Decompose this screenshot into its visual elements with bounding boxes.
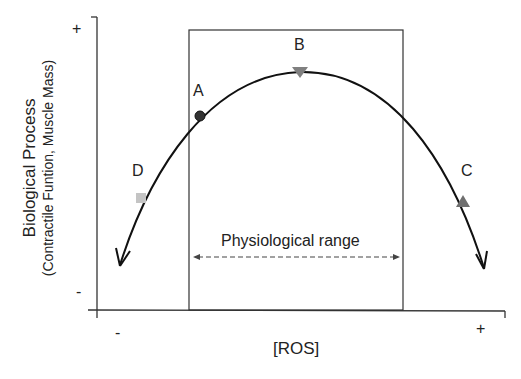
physiological-range-arrow xyxy=(193,254,400,260)
y-axis-minus-sign: - xyxy=(76,283,81,301)
y-axis-plus-sign: + xyxy=(72,20,81,38)
point-d-marker xyxy=(136,193,146,203)
y-axis xyxy=(91,17,97,318)
x-axis-plus-sign: + xyxy=(476,320,485,338)
physiological-range-label: Physiological range xyxy=(221,232,360,250)
y-axis-title: Biological Process xyxy=(20,60,40,276)
point-c-label: C xyxy=(461,162,473,180)
y-axis-subtitle: (Contractile Funtion, Muscle Mass) xyxy=(40,60,56,276)
x-axis-minus-sign: - xyxy=(115,324,120,342)
point-d-label: D xyxy=(132,162,144,180)
diagram-canvas xyxy=(0,0,521,379)
x-axis-title: [ROS] xyxy=(273,339,319,359)
x-axis xyxy=(88,310,505,318)
point-a-marker xyxy=(195,111,205,121)
point-b-label: B xyxy=(294,36,305,54)
point-a-label: A xyxy=(193,82,204,100)
